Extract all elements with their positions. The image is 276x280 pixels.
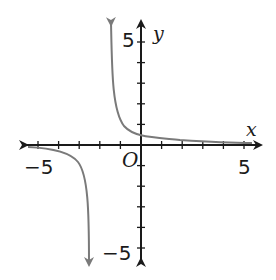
y-min-label: −5 [102, 243, 131, 263]
y-axis-label: y [153, 24, 164, 43]
x-min-label: −5 [24, 157, 53, 177]
y-max-label: 5 [122, 30, 135, 50]
origin-label: O [122, 150, 138, 170]
graph [0, 0, 276, 280]
x-max-label: 5 [238, 157, 251, 177]
x-axis-label: x [246, 120, 257, 139]
